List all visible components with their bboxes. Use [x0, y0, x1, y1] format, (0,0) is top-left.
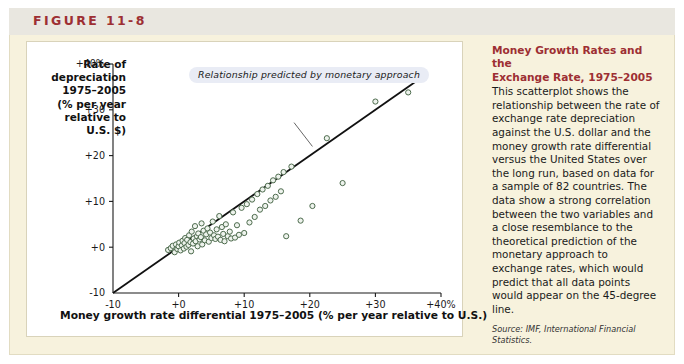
data-point [310, 203, 315, 208]
data-point [252, 214, 257, 219]
data-point [255, 191, 260, 196]
y-axis-ticks: -10+0+10+20+30+40% [76, 58, 113, 298]
figure-number-label: FIGURE 11-8 [33, 13, 147, 28]
annotation-leader-line [294, 123, 312, 147]
data-point [278, 189, 283, 194]
data-point [373, 99, 378, 104]
y-tick-label: +10 [85, 196, 105, 207]
scatter-plot: -10+0+10+20+30+40%-10+0+10+20+30+40% [26, 41, 463, 337]
data-point [268, 198, 273, 203]
data-point [406, 90, 411, 95]
data-point [236, 232, 241, 237]
sidebar-title-line-2: Exchange Rate, 1975–2005 [492, 71, 660, 84]
data-point [340, 180, 345, 185]
data-point [273, 194, 278, 199]
data-point [281, 169, 286, 174]
y-tick-label: +30 [85, 104, 105, 115]
data-point [192, 224, 197, 229]
y-tick-label: +20 [85, 150, 105, 161]
data-point [298, 218, 303, 223]
x-axis-title: Money growth rate differential 1975–2005… [60, 309, 460, 322]
data-point [214, 227, 219, 232]
sidebar-title-line-1: Money Growth Rates and the [492, 44, 660, 71]
data-point [227, 229, 232, 234]
data-point [230, 210, 235, 215]
data-point [324, 136, 329, 141]
data-point [189, 229, 194, 234]
data-point [257, 207, 262, 212]
y-tick-label: -10 [89, 287, 105, 298]
data-point [242, 230, 247, 235]
data-point [244, 202, 249, 207]
data-point [276, 174, 281, 179]
data-point [234, 223, 239, 228]
data-point [263, 203, 268, 208]
data-point [199, 221, 204, 226]
data-point [284, 234, 289, 239]
annotation-callout: Relationship predicted by monetary appro… [189, 67, 429, 83]
data-point [217, 213, 222, 218]
sidebar-source-note: Source: IMF, International Financial Sta… [492, 324, 660, 346]
figure-root: FIGURE 11-8 Rate of depreciation 1975–20… [0, 0, 684, 364]
sidebar-title: Money Growth Rates and the Exchange Rate… [492, 44, 660, 84]
x-axis-ticks: -10+0+10+20+30+40% [105, 293, 456, 310]
y-tick-label: +40% [76, 58, 105, 69]
data-point [249, 197, 254, 202]
sidebar-text-column: Money Growth Rates and the Exchange Rate… [492, 44, 660, 346]
data-point [247, 220, 252, 225]
y-tick-label: +0 [91, 242, 105, 253]
data-point [260, 187, 265, 192]
data-point [210, 219, 215, 224]
data-point [289, 164, 294, 169]
data-point [265, 183, 270, 188]
data-point [188, 249, 193, 254]
data-point [222, 239, 227, 244]
data-point [239, 205, 244, 210]
data-point-group [166, 90, 411, 255]
data-point [223, 222, 228, 227]
sidebar-body-text: This scatterplot shows the relationship … [492, 85, 660, 316]
data-point [270, 178, 275, 183]
